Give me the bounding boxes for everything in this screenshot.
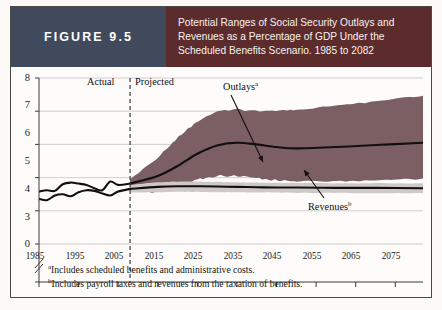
- revenues-annotation-label: Revenuesb: [308, 200, 352, 212]
- outlays-annotation-label: Outlaysa: [223, 80, 258, 92]
- outlays-label-text: Outlays: [223, 81, 255, 92]
- figure-header: FIGURE 9.5 Potential Ranges of Social Se…: [11, 7, 431, 67]
- figure-title-line-2: Revenues as a Percentage of GDP Under th…: [178, 30, 423, 44]
- y-tick-label: 4: [10, 184, 30, 194]
- revenues-label-text: Revenues: [308, 201, 348, 212]
- x-tick-label: 2015: [137, 251, 171, 261]
- figure-container: FIGURE 9.5 Potential Ranges of Social Se…: [0, 0, 442, 310]
- footnote-b: bIncludes payroll taxes and revenues fro…: [48, 275, 302, 290]
- figure-title-bar: Potential Ranges of Social Security Outl…: [166, 7, 431, 67]
- figure-number-badge: FIGURE 9.5: [11, 7, 166, 67]
- figure-title-line-3: Scheduled Benefits Scenario. 1985 to 208…: [178, 44, 423, 58]
- outlays-footnote-marker: a: [255, 80, 258, 88]
- y-tick-label: 3: [10, 212, 30, 222]
- y-tick-label: 8: [10, 73, 30, 83]
- y-tick-label: 6: [10, 128, 30, 138]
- x-tick-label: 2035: [216, 251, 250, 261]
- actual-period-label: Actual: [87, 76, 114, 87]
- y-tick-label: 7: [10, 100, 30, 110]
- x-tick-label: 2065: [334, 251, 368, 261]
- x-tick-label: 1995: [58, 251, 92, 261]
- x-tick-label: 2075: [374, 251, 408, 261]
- y-tick-label: 5: [10, 156, 30, 166]
- x-tick-label: 2045: [255, 251, 289, 261]
- figure-number-label: FIGURE 9.5: [44, 30, 133, 44]
- projected-period-label: Projected: [135, 76, 174, 87]
- footnote-b-text: Includes payroll taxes and revenues from…: [52, 278, 303, 289]
- x-tick-label: 2025: [176, 251, 210, 261]
- x-tick-label: 1985: [18, 251, 52, 261]
- footnote-a-text: Includes scheduled benefits and administ…: [51, 264, 255, 275]
- footnote-a: aIncludes scheduled benefits and adminis…: [48, 261, 255, 276]
- x-tick-label: 2005: [97, 251, 131, 261]
- y-tick-label: 0: [10, 239, 30, 249]
- revenues-footnote-marker: b: [348, 200, 352, 208]
- x-tick-label: 2055: [295, 251, 329, 261]
- figure-title-line-1: Potential Ranges of Social Security Outl…: [178, 16, 423, 30]
